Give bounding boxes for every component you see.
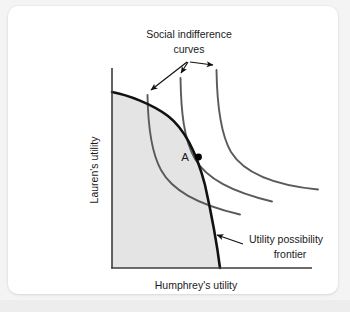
annotation-arrow-to-frontier xyxy=(217,235,243,244)
figure-root: A Social indifference curves Utility pos… xyxy=(0,0,350,312)
social-indifference-curve-3 xyxy=(217,70,319,190)
annotation-arrow-to-curve-3 xyxy=(190,62,213,65)
social-indifference-caption-line2: curves xyxy=(174,43,205,55)
social-indifference-caption-line1: Social indifference xyxy=(146,28,232,40)
point-a-label: A xyxy=(181,151,189,163)
x-axis-label: Humphrey's utility xyxy=(155,279,238,291)
y-axis-label: Lauren's utility xyxy=(88,136,100,204)
utility-frontier-caption-line2: frontier xyxy=(274,248,307,260)
utility-frontier-diagram: A Social indifference curves Utility pos… xyxy=(0,0,350,312)
utility-frontier-caption-line1: Utility possibility xyxy=(249,233,324,245)
point-a-marker xyxy=(195,154,202,161)
